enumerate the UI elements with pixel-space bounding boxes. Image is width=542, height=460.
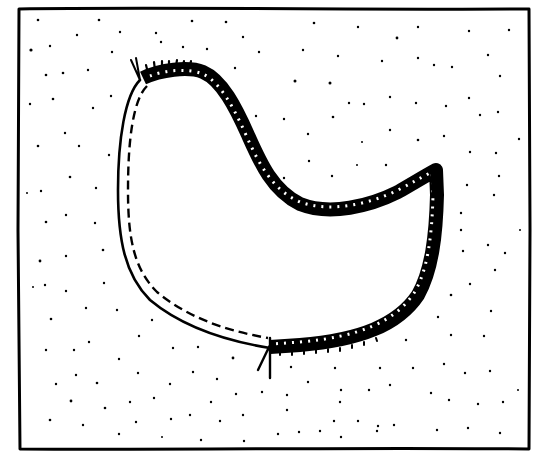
sketch-drawing xyxy=(0,0,542,460)
start-marker xyxy=(131,58,140,80)
frame-border xyxy=(18,8,530,449)
sketch-canvas: Hand-drawn sketch of a closed blob regio… xyxy=(0,0,542,460)
thick-hatched-edge xyxy=(143,60,442,355)
end-marker xyxy=(258,338,270,378)
stipple-dots xyxy=(26,19,521,442)
